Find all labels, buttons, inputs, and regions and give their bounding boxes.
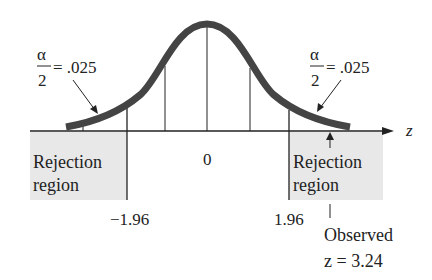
left-rejection-label-line2: region [33,175,79,195]
right-pointer-arrow [320,80,341,108]
left-alpha-value: = .025 [53,58,97,77]
observed-label-line1: Observed [324,225,393,245]
center-label: 0 [203,150,212,169]
normal-distribution-diagram: α 2 = .025 α 2 = .025 z 0 Rejection regi… [0,0,432,280]
right-rejection-label-line2: region [293,175,339,195]
left-alpha-numerator: α [37,45,46,64]
left-pointer-arrowhead [90,105,98,114]
left-alpha-denominator: 2 [38,71,47,90]
right-alpha-denominator: 2 [311,71,320,90]
observed-label-line2: z = 3.24 [324,251,383,271]
left-rejection-label-line1: Rejection [33,152,102,172]
left-pointer-arrow [73,80,95,110]
normal-curve [66,24,350,127]
left-critical-value: −1.96 [110,210,149,229]
right-critical-value: 1.96 [274,210,304,229]
right-alpha-numerator: α [310,45,319,64]
right-alpha-value: = .025 [326,58,370,77]
z-axis-arrowhead [382,127,394,135]
right-rejection-label-line1: Rejection [293,152,362,172]
z-axis-label: z [405,121,413,140]
